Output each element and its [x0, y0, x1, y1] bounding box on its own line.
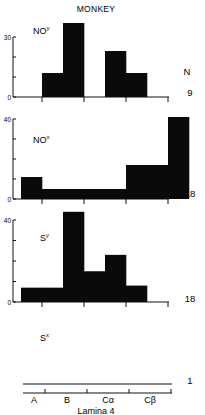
histogram-bar: [42, 73, 63, 97]
y-tick-label: 0: [7, 94, 11, 101]
lamina-label-c-beta: Cβ: [144, 395, 156, 405]
histogram-panels: 030NOy9040NOx18040Sy18Sx1: [4, 23, 196, 393]
panel-Sx: Sx1: [23, 332, 193, 393]
histogram-bar: [168, 117, 189, 199]
lamina-label-c-alpha: Cα: [102, 395, 114, 405]
n-value: 9: [187, 87, 192, 98]
n-value: 1: [187, 375, 192, 386]
histogram-bar: [105, 255, 126, 302]
lamina-label-a: A: [31, 395, 37, 405]
histogram-figure: MONKEY N 030NOy9040NOx18040Sy18Sx1 A B C…: [0, 0, 205, 415]
histogram-bar: [126, 165, 147, 199]
panel-label: NOx: [33, 134, 50, 145]
n-column-header: N: [184, 66, 191, 77]
histogram-bar: [147, 165, 168, 199]
n-value: 18: [185, 293, 196, 304]
panel-label: Sx: [40, 332, 49, 343]
y-tick-label: 30: [4, 34, 12, 41]
histogram-bar: [105, 51, 126, 97]
figure-title: MONKEY: [77, 4, 116, 14]
x-axis-title: Lamina 4: [77, 406, 114, 415]
histogram-bar: [42, 288, 63, 302]
histogram-bar: [42, 189, 63, 199]
panel-label: NOy: [33, 25, 50, 36]
n-value: 18: [185, 188, 196, 199]
panel-NOx: 040NOx18: [4, 116, 196, 205]
histogram-bar: [21, 288, 42, 302]
histogram-bar: [63, 189, 84, 199]
y-tick-label: 40: [4, 116, 12, 123]
histogram-bar: [126, 286, 147, 302]
histogram-bar: [84, 189, 105, 199]
histogram-bar: [126, 73, 147, 97]
panel-NOy: 030NOy9: [4, 23, 193, 102]
y-tick-label: 0: [7, 299, 11, 306]
y-tick-label: 40: [4, 217, 12, 224]
histogram-bar: [63, 212, 84, 302]
histogram-bar: [63, 23, 84, 97]
panel-Sy: 040Sy18: [4, 212, 196, 307]
lamina-axis: A B Cα Cβ Lamina 4: [31, 395, 156, 415]
histogram-bar: [21, 177, 42, 199]
panel-label: Sy: [40, 232, 49, 243]
lamina-label-b: B: [64, 395, 70, 405]
histogram-bar: [105, 189, 126, 199]
histogram-bar: [84, 271, 105, 302]
y-tick-label: 0: [7, 196, 11, 203]
